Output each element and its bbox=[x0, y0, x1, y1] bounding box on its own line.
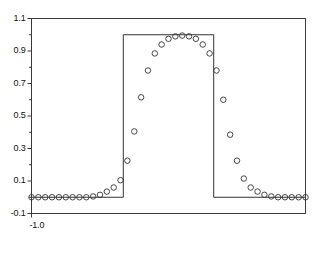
data-point-marker bbox=[145, 68, 151, 74]
data-point-marker bbox=[255, 189, 261, 195]
data-point-marker bbox=[125, 158, 131, 164]
data-point-marker bbox=[193, 36, 199, 42]
x-tick-label: -1.0 bbox=[30, 220, 45, 230]
series-markers-1 bbox=[29, 33, 309, 200]
data-point-marker bbox=[97, 192, 103, 198]
chart-container: -0.10.10.30.50.70.91.1 -1.0 bbox=[0, 0, 321, 253]
data-point-marker bbox=[118, 177, 124, 183]
y-tick-label: -0.1 bbox=[11, 208, 26, 218]
data-point-marker bbox=[166, 36, 172, 42]
y-tick-label: 0.9 bbox=[14, 45, 26, 55]
data-point-marker bbox=[227, 132, 233, 138]
data-point-marker bbox=[241, 176, 247, 182]
data-point-marker bbox=[131, 129, 137, 135]
data-point-marker bbox=[179, 33, 185, 39]
data-point-marker bbox=[207, 51, 213, 57]
y-tick-label: 0.3 bbox=[14, 143, 26, 153]
y-tick-label: 0.1 bbox=[14, 175, 26, 185]
data-point-marker bbox=[90, 194, 96, 200]
data-point-marker bbox=[234, 158, 240, 164]
data-point-marker bbox=[268, 194, 274, 200]
y-tick-label: 0.5 bbox=[14, 110, 26, 120]
data-point-marker bbox=[214, 68, 220, 74]
y-tick-label: 0.7 bbox=[14, 78, 26, 88]
data-point-marker bbox=[248, 185, 254, 191]
data-point-marker bbox=[200, 42, 206, 48]
plot-frame bbox=[32, 19, 306, 214]
data-point-marker bbox=[152, 51, 158, 57]
data-point-marker bbox=[104, 189, 110, 195]
data-point-marker bbox=[262, 192, 268, 198]
data-point-marker bbox=[138, 95, 144, 101]
y-tick-marks bbox=[28, 19, 32, 214]
data-point-marker bbox=[111, 185, 117, 191]
plot-area bbox=[0, 0, 321, 253]
data-point-marker bbox=[221, 97, 227, 103]
y-tick-label: 1.1 bbox=[14, 13, 26, 23]
data-point-marker bbox=[159, 42, 165, 48]
series-line-0 bbox=[32, 35, 306, 198]
